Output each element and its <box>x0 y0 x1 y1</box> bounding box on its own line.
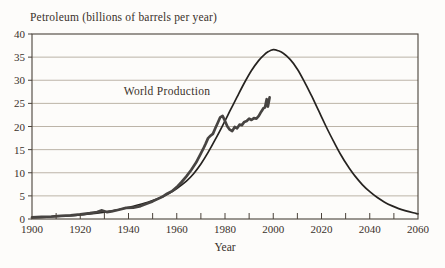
xtick-label-2000: 2000 <box>262 223 285 235</box>
x-axis-label: Year <box>214 241 235 253</box>
xtick-label-1940: 1940 <box>118 223 141 235</box>
xtick-label-2040: 2040 <box>359 223 382 235</box>
xtick-label-2020: 2020 <box>311 223 334 235</box>
chart-title: Petroleum (billions of barrels per year) <box>30 11 217 24</box>
axis-tick-labels: 0510152025303540190019201940196019802000… <box>14 28 430 235</box>
xtick-label-1960: 1960 <box>166 223 189 235</box>
ytick-label-20: 20 <box>14 121 26 133</box>
xtick-label-1980: 1980 <box>214 223 237 235</box>
world-production-label: World Production <box>124 85 211 97</box>
ytick-label-15: 15 <box>14 144 26 156</box>
petroleum-figure: 0510152025303540190019201940196019802000… <box>0 0 445 268</box>
ytick-label-40: 40 <box>14 28 26 40</box>
xtick-label-1920: 1920 <box>69 223 92 235</box>
xtick-label-1900: 1900 <box>21 223 44 235</box>
ytick-label-25: 25 <box>14 97 26 109</box>
ytick-label-10: 10 <box>14 167 26 179</box>
ytick-label-5: 5 <box>20 190 26 202</box>
petroleum-chart: 0510152025303540190019201940196019802000… <box>0 0 445 268</box>
series-line-world-production <box>32 97 270 217</box>
gridlines <box>32 57 418 196</box>
series-line-projection-curve <box>32 50 418 218</box>
data-series <box>32 50 418 218</box>
xtick-label-2060: 2060 <box>407 223 430 235</box>
ytick-label-35: 35 <box>14 51 26 63</box>
ytick-label-30: 30 <box>14 74 26 86</box>
